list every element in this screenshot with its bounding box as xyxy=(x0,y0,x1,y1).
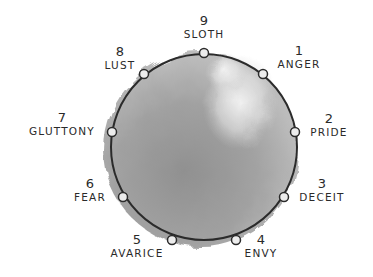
node-6 xyxy=(119,193,128,202)
node-3 xyxy=(280,193,289,202)
point-number: 7 xyxy=(18,111,106,124)
point-label: FEAR xyxy=(66,192,114,203)
point-number: 3 xyxy=(293,177,351,190)
point-number: 4 xyxy=(238,233,284,246)
point-label: ANGER xyxy=(272,59,326,70)
node-9 xyxy=(200,49,209,58)
watercolor-wash xyxy=(104,53,298,247)
point-3-deceit: 3 DECEIT xyxy=(293,177,351,203)
point-number: 1 xyxy=(272,44,326,57)
point-5-avarice: 5 AVARICE xyxy=(100,233,174,259)
enneagram-diagram: 9 SLOTH 1 ANGER 2 PRIDE 3 DECEIT 4 ENVY … xyxy=(0,0,373,277)
point-4-envy: 4 ENVY xyxy=(238,233,284,259)
node-1 xyxy=(259,70,268,79)
point-label: DECEIT xyxy=(293,192,351,203)
point-9-sloth: 9 SLOTH xyxy=(179,14,229,40)
point-label: LUST xyxy=(96,60,144,71)
point-number: 8 xyxy=(96,45,144,58)
enneagram-circle-graphic xyxy=(0,0,373,277)
point-2-pride: 2 PRIDE xyxy=(304,112,354,138)
node-2 xyxy=(291,128,300,137)
node-8 xyxy=(140,70,149,79)
point-number: 5 xyxy=(100,233,174,246)
point-6-fear: 6 FEAR xyxy=(66,177,114,203)
point-8-lust: 8 LUST xyxy=(96,45,144,71)
point-number: 9 xyxy=(179,14,229,27)
point-number: 2 xyxy=(304,112,354,125)
point-number: 6 xyxy=(66,177,114,190)
point-label: ENVY xyxy=(238,248,284,259)
point-label: SLOTH xyxy=(179,29,229,40)
point-1-anger: 1 ANGER xyxy=(272,44,326,70)
point-label: PRIDE xyxy=(304,127,354,138)
point-label: GLUTTONY xyxy=(18,126,106,137)
point-7-gluttony: 7 GLUTTONY xyxy=(18,111,106,137)
point-label: AVARICE xyxy=(100,248,174,259)
node-7 xyxy=(108,128,117,137)
